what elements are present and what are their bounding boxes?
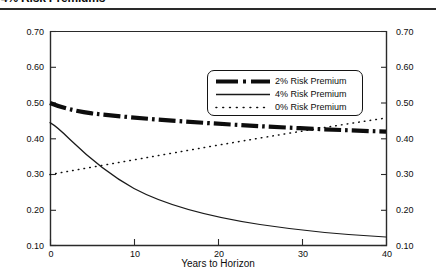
legend-line-dotted-icon: [214, 102, 272, 113]
legend-item-0pct[interactable]: 0% Risk Premium: [214, 101, 360, 114]
legend-label-2pct: 2% Risk Premium: [272, 76, 347, 87]
plot-area: 0.70 0.60 0.50 0.40 0.30 0.20 0.10 0.70 …: [0, 0, 436, 280]
y-axis-label-left-4: 0.30: [4, 169, 44, 179]
y-axis-label-right-4: 0.30: [396, 169, 436, 179]
x-ticks: [51, 239, 387, 245]
axis-spines: [51, 31, 387, 246]
x-axis-title: Years to Horizon: [0, 258, 436, 269]
y-axis-label-right-0: 0.70: [396, 27, 436, 37]
legend-line-dashdot-icon: [214, 76, 272, 87]
y-axis-label-right-1: 0.60: [396, 62, 436, 72]
y-axis-label-right-3: 0.40: [396, 134, 436, 144]
legend-label-4pct: 4% Risk Premium: [272, 89, 347, 100]
y-axis-label-left-3: 0.40: [4, 134, 44, 144]
y-axis-label-left-1: 0.60: [4, 62, 44, 72]
legend-item-4pct[interactable]: 4% Risk Premium: [214, 88, 360, 101]
series-line-4pct: [50, 123, 386, 237]
y-axis-label-left-0: 0.70: [4, 27, 44, 37]
legend-line-solid-icon: [214, 89, 272, 100]
y-axis-label-left-5: 0.20: [4, 205, 44, 215]
chart-legend: 2% Risk Premium 4% Risk Premium 0% Risk …: [207, 70, 363, 116]
legend-item-2pct[interactable]: 2% Risk Premium: [214, 75, 360, 88]
y-axis-label-right-5: 0.20: [396, 205, 436, 215]
y-axis-label-right-2: 0.50: [396, 98, 436, 108]
y-axis-label-left-2: 0.50: [4, 98, 44, 108]
chart-figure: 4% Risk Premiums: [0, 0, 436, 280]
chart-canvas: [0, 0, 436, 280]
legend-label-0pct: 0% Risk Premium: [272, 102, 347, 113]
